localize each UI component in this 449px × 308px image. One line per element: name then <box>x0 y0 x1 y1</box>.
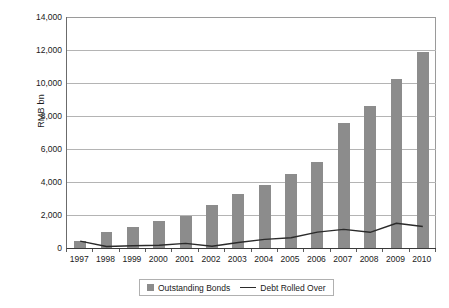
x-tick-mark <box>382 249 383 252</box>
x-tick-mark <box>409 249 410 252</box>
x-tick-mark <box>435 249 436 252</box>
x-tick-mark <box>224 249 225 252</box>
x-tick-mark <box>277 249 278 252</box>
x-tick-mark <box>251 249 252 252</box>
line-swatch-icon <box>240 287 256 288</box>
y-tick-label: 8,000 <box>18 112 62 121</box>
line-path <box>80 223 423 246</box>
bar-line-chart: RMB bn 02,0004,0006,0008,00010,00012,000… <box>0 0 449 308</box>
legend-label: Outstanding Bonds <box>158 283 230 293</box>
legend-entry: Outstanding Bonds <box>147 283 230 293</box>
debt-rolled-over-line <box>67 17 436 248</box>
y-tick-label: 6,000 <box>18 145 62 154</box>
y-tick-label: 14,000 <box>18 13 62 22</box>
x-tick-mark <box>356 249 357 252</box>
x-tick-mark <box>145 249 146 252</box>
y-tick-label: 0 <box>18 244 62 253</box>
x-tick-mark <box>330 249 331 252</box>
x-tick-mark <box>198 249 199 252</box>
y-axis-ticks: 02,0004,0006,0008,00010,00012,00014,000 <box>14 0 62 308</box>
x-tick-mark <box>66 249 67 252</box>
plot-area <box>66 17 436 249</box>
x-tick-mark <box>171 249 172 252</box>
chart-legend: Outstanding BondsDebt Rolled Over <box>139 279 334 296</box>
legend-entry: Debt Rolled Over <box>240 283 325 293</box>
y-tick-label: 2,000 <box>18 211 62 220</box>
x-tick-mark <box>92 249 93 252</box>
legend-label: Debt Rolled Over <box>260 283 325 293</box>
y-tick-label: 12,000 <box>18 46 62 55</box>
y-tick-label: 10,000 <box>18 79 62 88</box>
line-series-debt-rolled-over <box>67 17 436 248</box>
x-tick-mark <box>303 249 304 252</box>
x-axis-ticks: 1997199819992000200120022003200420052006… <box>66 249 436 269</box>
square-swatch-icon <box>147 284 154 291</box>
x-tick-mark <box>119 249 120 252</box>
y-tick-label: 4,000 <box>18 178 62 187</box>
x-tick-label: 2010 <box>407 254 437 264</box>
